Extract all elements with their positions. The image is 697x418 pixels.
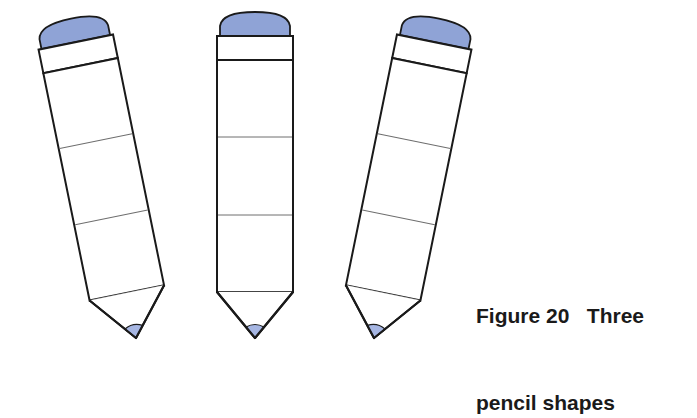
- pencil-left: [34, 11, 173, 346]
- pencil-right: [337, 11, 476, 346]
- figure-caption: Figure 20 Three pencil shapes: [476, 243, 644, 418]
- caption-line-1: Figure 20 Three: [476, 301, 644, 330]
- pencil-middle: [217, 12, 293, 338]
- caption-line-2: pencil shapes: [476, 388, 644, 417]
